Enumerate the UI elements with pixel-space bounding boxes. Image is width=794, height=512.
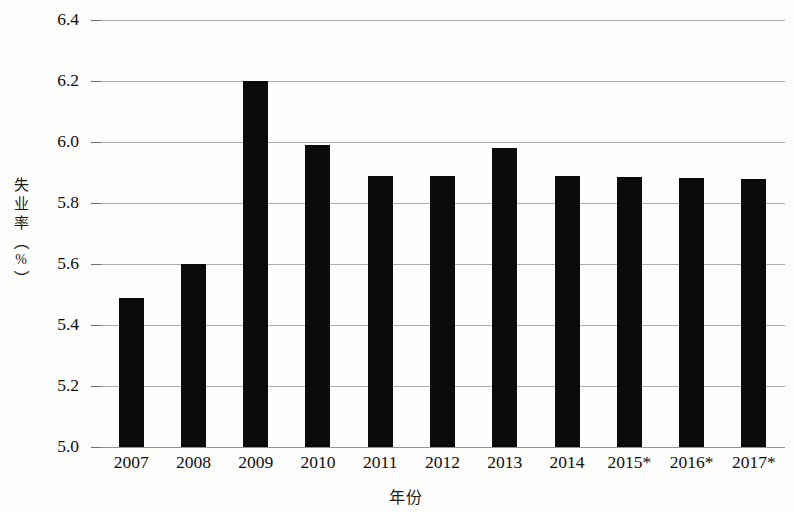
y-axis-tick-mark xyxy=(91,264,101,265)
bar xyxy=(368,176,393,447)
y-axis-tick-label: 6.4 xyxy=(31,11,79,28)
bar xyxy=(617,177,642,447)
y-axis-tick-mark xyxy=(91,142,101,143)
bar xyxy=(430,176,455,447)
y-axis-title-paren-open: （ xyxy=(12,229,30,255)
y-axis-tick-label: 5.2 xyxy=(31,377,79,394)
gridline xyxy=(100,142,785,143)
y-axis-tick-label: 5.0 xyxy=(31,438,79,455)
bar xyxy=(305,145,330,447)
y-axis-title-char-0: 失 xyxy=(8,176,34,195)
y-axis-tick-mark xyxy=(91,325,101,326)
bar xyxy=(243,81,268,447)
x-axis-tick-label: 2017* xyxy=(706,452,794,472)
bar xyxy=(119,298,144,447)
y-axis-tick-label: 6.2 xyxy=(31,72,79,89)
x-axis-title-text: 年份 xyxy=(389,484,423,508)
plot-area: 5.05.25.45.65.86.06.26.4 xyxy=(100,20,785,447)
gridline xyxy=(100,447,785,448)
gridline xyxy=(100,20,785,21)
unemployment-rate-bar-chart: 失 业 率 （ % ） 5.05.25.45.65.86.06.26.4 200… xyxy=(0,0,794,512)
y-axis-tick-mark xyxy=(91,20,101,21)
y-axis-tick-mark xyxy=(91,447,101,448)
y-axis-tick-label: 5.6 xyxy=(31,255,79,272)
bar xyxy=(181,264,206,447)
y-axis-title-paren-close: ） xyxy=(12,265,30,291)
bar xyxy=(741,179,766,447)
y-axis-tick-mark xyxy=(91,81,101,82)
y-axis-tick-mark xyxy=(91,386,101,387)
gridline xyxy=(100,81,785,82)
bar xyxy=(492,148,517,447)
y-axis-tick-label: 6.0 xyxy=(31,133,79,150)
x-axis-title: 年份 xyxy=(0,484,794,508)
y-axis-tick-mark xyxy=(91,203,101,204)
bar xyxy=(679,178,704,447)
bar xyxy=(555,176,580,447)
y-axis-tick-label: 5.4 xyxy=(31,316,79,333)
y-axis-tick-label: 5.8 xyxy=(31,194,79,211)
